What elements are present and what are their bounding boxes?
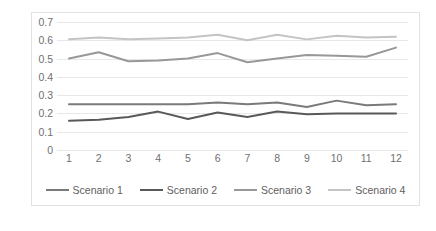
x-axis-tick-label: 12 (390, 153, 402, 164)
series-line (69, 101, 396, 107)
x-axis: 123456789101112 (57, 153, 408, 169)
x-axis-tick-label: 8 (274, 153, 280, 164)
series-container (57, 22, 408, 150)
legend-line-icon (46, 189, 69, 192)
y-axis-tick-label: 0 (47, 145, 53, 156)
series-line (69, 112, 396, 121)
x-axis-tick-label: 5 (185, 153, 191, 164)
x-axis-tick-label: 2 (96, 153, 102, 164)
y-axis-tick-label: 0.4 (38, 72, 53, 83)
y-axis-tick-label: 0.1 (38, 127, 53, 138)
x-axis-tick-label: 3 (126, 153, 132, 164)
legend-line-icon (234, 189, 257, 192)
chart-legend: Scenario 1Scenario 2Scenario 3Scenario 4 (31, 180, 420, 200)
legend-item-label: Scenario 1 (73, 185, 123, 196)
legend-line-icon (140, 189, 163, 192)
y-axis-tick-label: 0.3 (38, 90, 53, 101)
x-axis-tick-label: 11 (361, 153, 372, 164)
legend-item[interactable]: Scenario 1 (46, 185, 123, 196)
x-axis-tick-label: 6 (215, 153, 221, 164)
y-axis-tick-label: 0.5 (38, 54, 53, 65)
y-axis: 00.10.20.30.40.50.60.7 (28, 22, 53, 150)
x-axis-tick-label: 9 (304, 153, 310, 164)
legend-item[interactable]: Scenario 4 (328, 185, 405, 196)
x-axis-tick-label: 10 (331, 153, 343, 164)
line-chart: 00.10.20.30.40.50.60.7 123456789101112 S… (0, 0, 436, 231)
x-axis-tick-label: 7 (244, 153, 250, 164)
legend-item[interactable]: Scenario 3 (234, 185, 311, 196)
x-axis-tick-label: 4 (155, 153, 161, 164)
legend-item-label: Scenario 2 (167, 185, 217, 196)
legend-item-label: Scenario 4 (355, 185, 405, 196)
y-axis-tick-label: 0.7 (38, 17, 53, 28)
legend-line-icon (328, 189, 351, 192)
gridline (57, 150, 408, 151)
series-line (69, 48, 396, 63)
y-axis-tick-label: 0.2 (38, 108, 53, 119)
plot-area (57, 22, 408, 150)
y-axis-tick-label: 0.6 (38, 35, 53, 46)
legend-item-label: Scenario 3 (261, 185, 311, 196)
series-line (69, 35, 396, 40)
legend-item[interactable]: Scenario 2 (140, 185, 217, 196)
x-axis-tick-label: 1 (66, 153, 72, 164)
